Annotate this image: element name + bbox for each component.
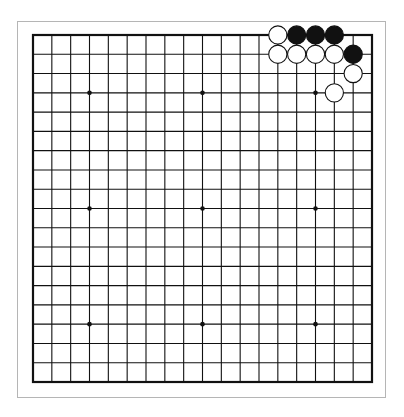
white-stone bbox=[269, 26, 287, 44]
white-stone bbox=[306, 45, 324, 63]
star-point bbox=[313, 206, 318, 211]
star-point bbox=[200, 206, 205, 211]
white-stone bbox=[325, 45, 343, 63]
star-point bbox=[313, 322, 318, 327]
white-stone bbox=[325, 84, 343, 102]
black-stone bbox=[325, 26, 343, 44]
star-point bbox=[313, 91, 318, 96]
star-point bbox=[200, 91, 205, 96]
white-stone bbox=[269, 45, 287, 63]
black-stone bbox=[306, 26, 324, 44]
star-point bbox=[87, 91, 92, 96]
star-point bbox=[87, 206, 92, 211]
black-stone bbox=[288, 26, 306, 44]
white-stone bbox=[344, 64, 362, 82]
go-board bbox=[0, 0, 404, 417]
black-stone bbox=[344, 45, 362, 63]
star-point bbox=[87, 322, 92, 327]
star-point bbox=[200, 322, 205, 327]
white-stone bbox=[288, 45, 306, 63]
